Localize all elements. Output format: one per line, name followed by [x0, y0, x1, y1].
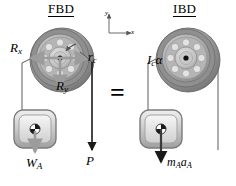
reaction-y-sub: y	[64, 84, 68, 94]
weight-label: WA	[26, 156, 42, 171]
coordinate-axes-graphic	[109, 14, 131, 33]
equals-sign: =	[110, 80, 125, 106]
load-p-label: P	[86, 154, 94, 167]
inertia-force-accel-sub: A	[187, 161, 192, 170]
figure-canvas: FBD IBD	[0, 0, 236, 186]
reaction-y-label: Ry	[56, 79, 68, 94]
axis-x-label: x	[131, 29, 134, 36]
weight-base: W	[26, 155, 37, 170]
fbd-graphic	[14, 28, 94, 152]
reaction-x-base: R	[10, 40, 18, 55]
ibd-graphic	[140, 28, 220, 162]
reaction-y-base: R	[56, 78, 64, 93]
load-p-base: P	[86, 153, 94, 168]
radius-c-label: rc	[88, 51, 96, 65]
reaction-x-label: Rx	[10, 41, 22, 56]
inertia-moment-alpha: α	[155, 52, 162, 67]
inertia-force-label: mAaA	[167, 156, 192, 170]
inertia-force-mass: m	[167, 155, 176, 169]
radius-c-sub: c	[93, 56, 97, 65]
inertia-moment-label: Icα	[147, 53, 162, 68]
weight-sub: A	[37, 161, 43, 171]
reaction-x-sub: x	[18, 46, 22, 56]
axis-y-label: y	[105, 10, 108, 17]
